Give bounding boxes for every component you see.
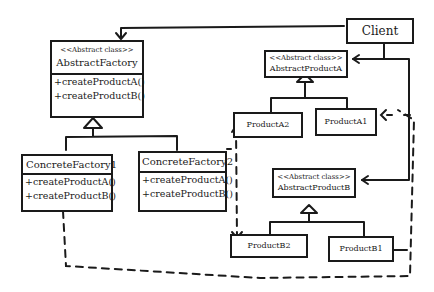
arrowhead-icon xyxy=(381,110,386,120)
class-name: ProductA2 xyxy=(235,114,301,136)
client-to-abstractfactory-line xyxy=(121,26,344,38)
class-concrete-factory-2[interactable]: ConcreteFactory2 +createProductA() +crea… xyxy=(138,151,227,212)
class-abstract-product-b[interactable]: <<Abstract class>> AbstractProductB xyxy=(272,168,356,198)
class-abstract-product-a[interactable]: <<Abstract class>> AbstractProductA xyxy=(264,50,348,78)
class-product-a2[interactable]: ProductA2 xyxy=(233,112,303,138)
class-name: AbstractProductB xyxy=(274,182,354,194)
class-name: AbstractProductA xyxy=(266,63,346,75)
class-client[interactable]: Client xyxy=(346,18,414,44)
stereotype-label: <<Abstract class>> xyxy=(274,173,354,182)
class-name: AbstractFactory xyxy=(52,55,142,71)
class-product-b2[interactable]: ProductB2 xyxy=(230,234,308,258)
productB-inheritance-line xyxy=(270,213,364,236)
class-name: Client xyxy=(348,20,412,42)
operation: +createProductA() xyxy=(140,173,225,187)
class-product-b1[interactable]: ProductB1 xyxy=(328,236,394,262)
class-product-a1[interactable]: ProductA1 xyxy=(315,108,377,136)
operation: +createProductB() xyxy=(52,89,142,103)
class-abstract-factory[interactable]: <<Abstract class>> AbstractFactory +crea… xyxy=(50,40,144,118)
class-name: ProductA1 xyxy=(317,110,375,134)
class-name: ProductB1 xyxy=(330,238,392,260)
class-name: ConcreteFactory1 xyxy=(23,156,111,173)
inheritance-triangle-icon xyxy=(301,205,317,213)
operation: +createProductB() xyxy=(140,187,225,201)
class-name: ProductB2 xyxy=(232,236,306,256)
class-name: ConcreteFactory2 xyxy=(140,153,225,171)
cf2-dependency-line xyxy=(236,128,237,238)
operation: +createProductB() xyxy=(23,189,111,203)
operation: +createProductA() xyxy=(52,75,142,89)
factory-inheritance-line xyxy=(66,128,177,150)
class-concrete-factory-1[interactable]: ConcreteFactory1 +createProductA() +crea… xyxy=(21,154,113,212)
stereotype-label: <<Abstract class>> xyxy=(266,54,346,63)
operation: +createProductA() xyxy=(23,175,111,189)
stereotype-label: <<Abstract class>> xyxy=(52,46,142,55)
inheritance-triangle-icon xyxy=(84,118,102,128)
